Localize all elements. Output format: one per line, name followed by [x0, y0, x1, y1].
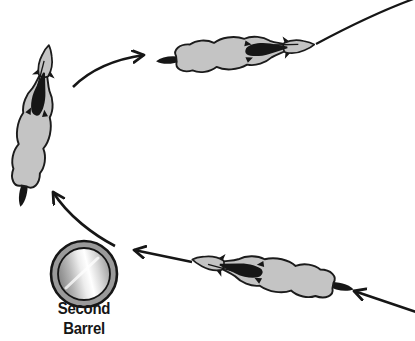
exit-path-line: [316, 0, 415, 44]
course-diagram-canvas: [0, 0, 415, 341]
course-diagram: Second Barrel: [0, 0, 415, 341]
horse-and-rider-approaching-from-right: [189, 243, 356, 306]
turn-arrow: [53, 192, 115, 246]
second-barrel-label: Second Barrel: [33, 299, 135, 339]
second-barrel: [51, 241, 117, 307]
barrel-top: [58, 248, 110, 300]
second-barrel-label-line2: Barrel: [33, 319, 135, 339]
approach-arrow: [134, 250, 192, 262]
second-barrel-label-line1: Second: [33, 299, 135, 319]
horse-and-rider-exiting-top-right: [154, 29, 316, 78]
exit-arrow: [73, 55, 144, 87]
horse-and-rider-turning-upward: [4, 42, 65, 209]
entry-arrow: [354, 291, 415, 312]
